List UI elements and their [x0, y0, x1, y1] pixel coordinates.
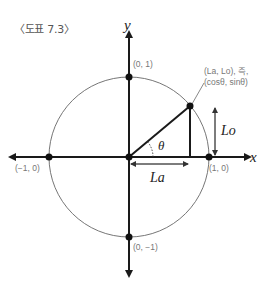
label-bottom: (0, −1) [133, 242, 158, 252]
point-right [206, 154, 213, 161]
y-axis-label: y [122, 17, 131, 33]
annotation-leader [192, 83, 204, 104]
point-bottom [126, 234, 133, 241]
point-left [46, 154, 53, 161]
unit-circle-diagram: y x (0, 1) (0, −1) (−1, 0) (1, 0) (La, L… [0, 0, 272, 286]
annotation-line1: (La, Lo), 즉, [204, 66, 248, 76]
lo-label: Lo [220, 123, 236, 138]
point-p [187, 103, 194, 110]
origin-point [126, 154, 133, 161]
point-top [126, 74, 133, 81]
label-top: (0, 1) [133, 59, 153, 69]
angle-arc [147, 141, 153, 157]
x-axis-label: x [249, 149, 257, 165]
theta-label: θ [158, 138, 165, 153]
annotation-line2: (cosθ, sinθ) [204, 77, 248, 87]
label-right: (1, 0) [209, 163, 229, 173]
la-label: La [149, 170, 165, 185]
label-left: (−1, 0) [15, 163, 40, 173]
